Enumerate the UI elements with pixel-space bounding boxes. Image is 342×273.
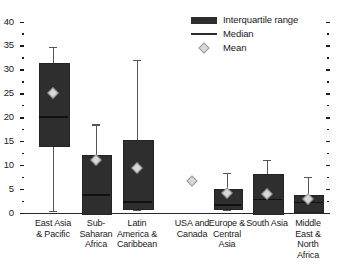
x-axis-category-label: MiddleEast &NorthAfrica [280, 218, 336, 260]
whisker-cap-upper [304, 177, 312, 178]
legend-label-median: Median [223, 29, 254, 39]
category-label-line: America & [109, 229, 165, 240]
category-label-line: North [280, 239, 336, 250]
legend-label-iqr: Interquartile range [223, 15, 298, 25]
legend-item-iqr: Interquartile range [190, 14, 330, 26]
category-label-line: Asia [199, 239, 255, 250]
legend-label-mean: Mean [223, 43, 246, 53]
category-label-line: Latin [109, 218, 165, 229]
category-label-line: Caribbean [109, 239, 165, 250]
legend-item-median: Median [190, 28, 330, 40]
category-label-line: Africa [280, 250, 336, 261]
box-plot-chart: 0510152025303540 East Asia& PacificSub-S… [0, 0, 342, 273]
iqr-swatch-icon [190, 17, 218, 24]
x-axis-category-label: LatinAmerica &Caribbean [109, 218, 165, 250]
legend: Interquartile range Median Mean [190, 14, 330, 56]
category-label-line: Middle [280, 218, 336, 229]
category-label-line: East & [280, 229, 336, 240]
mean-swatch-icon [190, 44, 218, 52]
category-label-line: Central [199, 229, 255, 240]
median-swatch-icon [190, 33, 218, 34]
legend-item-mean: Mean [190, 42, 330, 54]
